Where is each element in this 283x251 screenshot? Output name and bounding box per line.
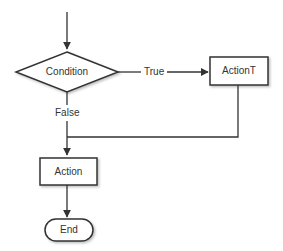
end-label: End [45,224,93,235]
flowchart-canvas [0,0,283,251]
condition-label: Condition [37,66,97,77]
edge-actionT-to-action [67,85,238,137]
false-edge-label: False [53,107,81,118]
true-edge-label: True [142,66,166,77]
actionT-label: ActionT [210,65,268,76]
action-label: Action [40,166,97,177]
